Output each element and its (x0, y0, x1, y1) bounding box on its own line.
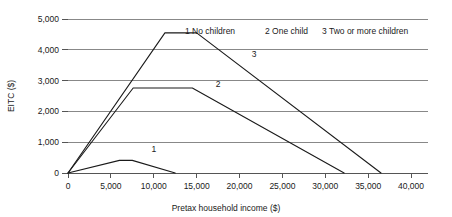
y-tick-label: 1,000 (38, 137, 60, 147)
eitc-chart: 01,0002,0003,0004,0005,000 05,00010,0001… (0, 0, 452, 217)
gridlines-group (68, 19, 428, 173)
legend-entry-2: 2 One child (265, 26, 308, 36)
chart-canvas: 01,0002,0003,0004,0005,000 05,00010,0001… (0, 0, 452, 217)
series-inline-label-3: 3 (252, 49, 257, 59)
y-tick-label: 0 (54, 168, 59, 178)
x-tick-label: 20,000 (227, 181, 253, 191)
series-line-3 (68, 33, 381, 173)
y-tick-label: 4,000 (38, 45, 60, 55)
series-line-2 (68, 88, 344, 173)
x-tick-label: 15,000 (184, 181, 210, 191)
series-line-1 (68, 160, 175, 173)
x-tick-label: 40,000 (398, 181, 424, 191)
legend-entry-3: 3 Two or more children (322, 26, 409, 36)
legend-entry-1: 1 No children (185, 26, 235, 36)
x-axis-title: Pretax household income ($) (172, 203, 281, 213)
x-tick-label: 35,000 (355, 181, 381, 191)
series-inline-label-1: 1 (151, 144, 156, 154)
series-lines-group (68, 33, 381, 173)
y-tick-label: 5,000 (38, 14, 60, 24)
x-tick-labels-group: 05,00010,00015,00020,00025,00030,00035,0… (66, 181, 425, 191)
x-tick-label: 25,000 (269, 181, 295, 191)
y-axis-title: EITC ($) (6, 80, 16, 112)
x-tick-label: 10,000 (141, 181, 167, 191)
ticks-group (62, 19, 411, 178)
x-tick-label: 0 (66, 181, 71, 191)
y-tick-label: 2,000 (38, 106, 60, 116)
x-tick-label: 30,000 (312, 181, 338, 191)
y-tick-labels-group: 01,0002,0003,0004,0005,000 (38, 14, 60, 178)
legend-group: 1 No children2 One child3 Two or more ch… (185, 26, 409, 36)
series-inline-labels-group: 123 (151, 49, 256, 154)
x-tick-label: 5,000 (100, 181, 122, 191)
series-inline-label-2: 2 (216, 79, 221, 89)
y-tick-label: 3,000 (38, 76, 60, 86)
